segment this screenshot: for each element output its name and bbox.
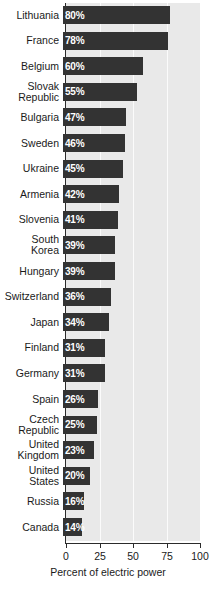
bar-track: 55%: [62, 80, 212, 104]
bar-value-label: 31%: [65, 339, 84, 357]
bar-value-label: 60%: [65, 57, 84, 75]
x-tick-label: 75: [161, 550, 173, 562]
bar-row: Germany31%: [0, 361, 216, 385]
category-label: South Korea: [0, 234, 62, 256]
bar-row: United States20%: [0, 464, 216, 488]
bar-row: Ukraine45%: [0, 157, 216, 181]
bar-track: 39%: [62, 233, 212, 257]
x-tick-label: 25: [94, 550, 106, 562]
bar-value-label: 55%: [65, 83, 84, 101]
category-label: Hungary: [0, 266, 62, 277]
bar-row: Bulgaria47%: [0, 105, 216, 129]
bar-track: 60%: [62, 54, 212, 78]
category-label: Spain: [0, 394, 62, 405]
x-tick-0: [66, 544, 67, 548]
bar-track: 31%: [62, 361, 212, 385]
bar-row: Japan34%: [0, 310, 216, 334]
bar-value-label: 47%: [65, 108, 84, 126]
x-tick-label: 0: [63, 550, 69, 562]
category-label: Japan: [0, 317, 62, 328]
bar-value-label: 78%: [65, 32, 84, 50]
bar-row: Switzerland36%: [0, 285, 216, 309]
bar-row: France78%: [0, 29, 216, 53]
bar-track: 42%: [62, 182, 212, 206]
category-label: Czech Republic: [0, 414, 62, 436]
category-label: Switzerland: [0, 291, 62, 302]
category-label: Slovak Republic: [0, 81, 62, 103]
bar-track: 25%: [62, 413, 212, 437]
bar-value-label: 41%: [65, 211, 84, 229]
category-label: Belgium: [0, 61, 62, 72]
bar-value-label: 25%: [65, 416, 84, 434]
bar-value-label: 31%: [65, 364, 84, 382]
x-tick-50: [133, 544, 134, 548]
category-label: Armenia: [0, 189, 62, 200]
bar-value-label: 36%: [65, 288, 84, 306]
category-label: Lithuania: [0, 10, 62, 21]
category-label: Ukraine: [0, 163, 62, 174]
bar-value-label: 45%: [65, 160, 84, 178]
bar-row: Finland31%: [0, 336, 216, 360]
x-axis-title: Percent of electric power: [0, 566, 216, 578]
bar-value-label: 46%: [65, 134, 84, 152]
bar-chart: Lithuania80%France78%Belgium60%Slovak Re…: [0, 0, 216, 593]
bar-row: Belgium60%: [0, 54, 216, 78]
bar-row: Slovak Republic55%: [0, 80, 216, 104]
bar-rows: Lithuania80%France78%Belgium60%Slovak Re…: [0, 3, 216, 541]
bar-track: 31%: [62, 336, 212, 360]
x-tick-75: [167, 544, 168, 548]
category-label: Finland: [0, 342, 62, 353]
x-tick-label: 50: [127, 550, 139, 562]
bar-row: Slovenia41%: [0, 208, 216, 232]
bar-track: 39%: [62, 259, 212, 283]
category-label: Canada: [0, 522, 62, 533]
category-label: France: [0, 35, 62, 46]
bar-track: 36%: [62, 285, 212, 309]
bar-track: 20%: [62, 464, 212, 488]
bar-row: Armenia42%: [0, 182, 216, 206]
bar-track: 14%: [62, 515, 212, 539]
bar-track: 78%: [62, 29, 212, 53]
category-label: Slovenia: [0, 214, 62, 225]
bar-value-label: 16%: [65, 492, 84, 510]
bar-track: 16%: [62, 489, 212, 513]
category-label: Germany: [0, 368, 62, 379]
bar-value-label: 39%: [65, 236, 84, 254]
bar-track: 45%: [62, 157, 212, 181]
bar-value-label: 26%: [65, 390, 84, 408]
bar-row: Czech Republic25%: [0, 413, 216, 437]
category-label: Bulgaria: [0, 112, 62, 123]
bar-row: South Korea39%: [0, 233, 216, 257]
bar-track: 41%: [62, 208, 212, 232]
category-label: United Kingdom: [0, 439, 62, 461]
bar-track: 80%: [62, 3, 212, 27]
bar-row: Spain26%: [0, 387, 216, 411]
bar-track: 26%: [62, 387, 212, 411]
x-tick-label: 100: [191, 550, 209, 562]
bar-track: 34%: [62, 310, 212, 334]
bar-value-label: 23%: [65, 441, 84, 459]
x-tick-100: [200, 544, 201, 548]
bar-value-label: 20%: [65, 467, 84, 485]
bar-value-label: 80%: [65, 6, 84, 24]
bar-row: Lithuania80%: [0, 3, 216, 27]
bar-value-label: 42%: [65, 185, 84, 203]
bar-track: 23%: [62, 438, 212, 462]
bar-track: 47%: [62, 105, 212, 129]
bar-value-label: 34%: [65, 313, 84, 331]
bar-row: United Kingdom23%: [0, 438, 216, 462]
bar-row: Canada14%: [0, 515, 216, 539]
bar-value-label: 14%: [65, 518, 84, 536]
category-label: United States: [0, 465, 62, 487]
category-label: Russia: [0, 496, 62, 507]
bar-track: 46%: [62, 131, 212, 155]
bar-row: Russia16%: [0, 489, 216, 513]
bar-value-label: 39%: [65, 262, 84, 280]
bar-row: Hungary39%: [0, 259, 216, 283]
x-tick-25: [100, 544, 101, 548]
category-label: Sweden: [0, 138, 62, 149]
bar-row: Sweden46%: [0, 131, 216, 155]
